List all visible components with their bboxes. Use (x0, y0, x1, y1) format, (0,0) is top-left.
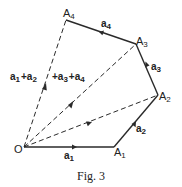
dashed-OA2 (24, 95, 158, 147)
arrow-OA2-icon (86, 122, 92, 127)
arrow-OA3-icon (68, 101, 74, 109)
vector-label-a1: a1 (64, 150, 75, 163)
arrow-a1-icon (72, 145, 77, 150)
origin-label: O (14, 143, 23, 155)
vector-label-a4: a4 (101, 18, 112, 31)
vector-label-a3: a3 (151, 61, 162, 74)
sum-label-left: a1+a2 (10, 71, 37, 84)
figure-caption: Fig. 3 (77, 169, 105, 183)
sum-label-right: +a3+a4 (52, 71, 85, 84)
point-label-a3: A3 (136, 35, 148, 49)
dashed-OA3 (24, 44, 136, 147)
dashed-arrows (42, 83, 92, 126)
point-label-a2: A2 (159, 90, 171, 104)
vector-addition-diagram: O A1 A2 A3 A4 a1 a2 a3 a4 a1+a2 +a3+a4 F… (0, 0, 182, 187)
point-label-a4: A4 (63, 7, 75, 21)
vector-label-a2: a2 (136, 123, 147, 136)
point-label-a1: A1 (114, 146, 126, 160)
arrow-a3-icon (145, 62, 150, 68)
